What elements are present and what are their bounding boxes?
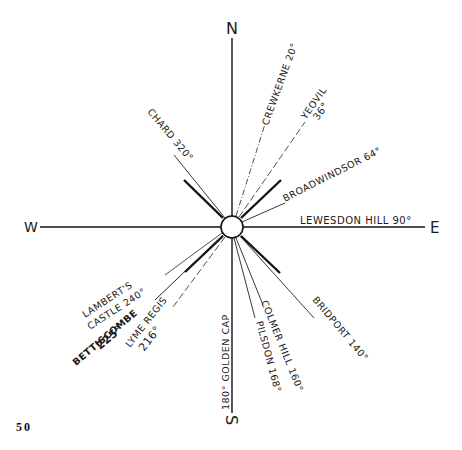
east-label: E xyxy=(430,219,440,237)
ray-bridport xyxy=(240,236,314,318)
ray-colmer-hill xyxy=(236,238,263,305)
center-circle xyxy=(221,216,243,238)
se-tick xyxy=(241,236,280,273)
label-lewesdon-hill: LEWESDON HILL 90° xyxy=(300,215,412,226)
label-golden-cap: 180° GOLDEN CAP xyxy=(220,314,231,410)
ray-chard xyxy=(174,155,225,218)
ray-lyme-regis xyxy=(173,237,225,307)
label-chard: CHARD 320° xyxy=(145,106,195,163)
ray-yeovil xyxy=(239,122,305,217)
ray-bettiscombe xyxy=(155,235,223,300)
ray-crewkerne xyxy=(236,124,265,216)
ray-lamberts-castle xyxy=(165,233,222,275)
label-bridport: BRIDPORT 140° xyxy=(310,294,370,363)
page-number: 50 xyxy=(16,420,32,435)
label-broadwindsor: BROADWINDSOR 64° xyxy=(281,145,383,204)
compass-diagram: N S E W CREWKERNE 20° YEOVIL 36° BROADWI… xyxy=(0,0,462,450)
west-label: W xyxy=(24,219,38,235)
label-crewkerne: CREWKERNE 20° xyxy=(260,41,300,126)
nw-tick xyxy=(184,180,223,218)
sw-tick xyxy=(185,236,223,272)
south-label: S xyxy=(222,415,241,426)
ne-tick xyxy=(241,180,281,218)
north-label: N xyxy=(226,19,238,38)
